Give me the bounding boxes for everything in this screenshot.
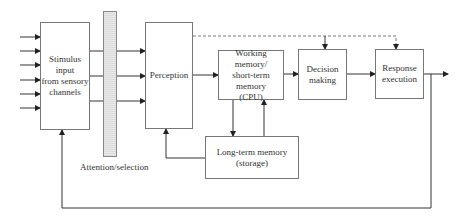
node-text: channels xyxy=(41,87,88,98)
node-text: (CPU) xyxy=(219,92,283,103)
node-text: Perception xyxy=(150,70,189,81)
node-text: execution xyxy=(382,74,417,85)
attention-selection-label: Attention/selection xyxy=(80,162,148,172)
node-text: making xyxy=(307,75,339,86)
node-text: Stimulus xyxy=(41,54,88,65)
node-text: Working memory/ xyxy=(219,48,283,70)
node-text: Long-term memory xyxy=(217,147,288,158)
attention-selection-filter xyxy=(103,11,117,157)
node-text: memory xyxy=(219,81,283,92)
node-text: Response xyxy=(382,63,417,74)
node-text: from sensory xyxy=(41,76,88,87)
working-memory-node: Working memory/ short-term memory (CPU) xyxy=(218,50,284,100)
node-text: (storage) xyxy=(217,158,288,169)
perception-node: Perception xyxy=(145,22,193,129)
long-term-memory-node: Long-term memory (storage) xyxy=(205,136,299,179)
node-text: input xyxy=(41,65,88,76)
node-text: short-term xyxy=(219,70,283,81)
response-execution-node: Response execution xyxy=(375,49,424,99)
stimulus-input-node: Stimulus input from sensory channels xyxy=(40,22,90,130)
node-text: Decision xyxy=(307,64,339,75)
decision-making-node: Decision making xyxy=(298,49,347,100)
